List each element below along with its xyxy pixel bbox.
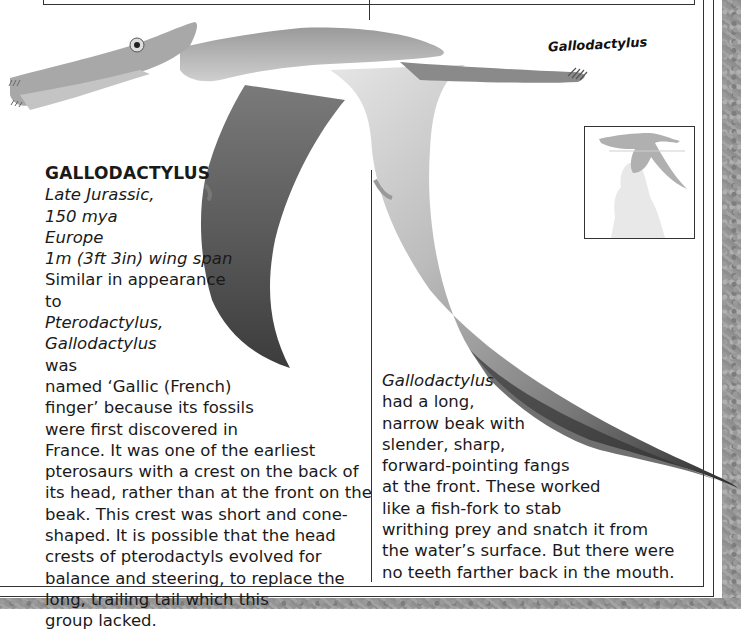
body-line: Gallodactylus was (45, 333, 375, 376)
period: Late Jurassic, (45, 184, 375, 205)
body-line: slender, sharp, (382, 434, 702, 455)
body-line: named ‘Gallic (French) (45, 376, 375, 397)
body-line: beak. This crest was short and cone- (45, 504, 375, 525)
body-line: had a long, (382, 391, 702, 412)
body-line: Gallodactylus (382, 370, 702, 391)
beak-description: Gallodactylus had a long, narrow beak wi… (382, 370, 702, 583)
body-line: the water’s surface. But there were (382, 540, 702, 561)
eye-icon (134, 42, 140, 48)
body-line: forward-pointing fangs (382, 455, 702, 476)
body-line: to Pterodactylus, (45, 291, 375, 334)
fact-file: GALLODACTYLUS Late Jurassic, 150 mya Eur… (45, 163, 375, 632)
body-line: at the front. These worked (382, 476, 702, 497)
wing-span: 1m (3ft 3in) wing span (45, 248, 375, 269)
body-line: were first discovered in (45, 419, 375, 440)
body-line: pterosaurs with a crest on the back of (45, 461, 375, 482)
body-line: no teeth farther back in the mouth. (382, 562, 702, 583)
body-line: crests of pterodactyls evolved for (45, 546, 375, 567)
body-line: balance and steering, to replace the (45, 568, 375, 589)
scale-comparison-inset (584, 126, 695, 239)
body-line: group lacked. (45, 610, 375, 631)
scale-silhouette-icon (585, 127, 694, 238)
body-line: finger’ because its fossils (45, 397, 375, 418)
arm (400, 62, 585, 83)
body-line: like a fish-fork to stab (382, 498, 702, 519)
body-line: shaped. It is possible that the head (45, 525, 375, 546)
body-line: Similar in appearance (45, 269, 375, 290)
body-line: writhing prey and snatch it from (382, 519, 702, 540)
age: 150 mya (45, 206, 375, 227)
body-line: France. It was one of the earliest (45, 440, 375, 461)
species-name: GALLODACTYLUS (45, 163, 375, 184)
body-line: long, trailing tail which this (45, 589, 375, 610)
body-line: its head, rather than at the front on th… (45, 482, 375, 503)
location: Europe (45, 227, 375, 248)
body-line: narrow beak with (382, 413, 702, 434)
